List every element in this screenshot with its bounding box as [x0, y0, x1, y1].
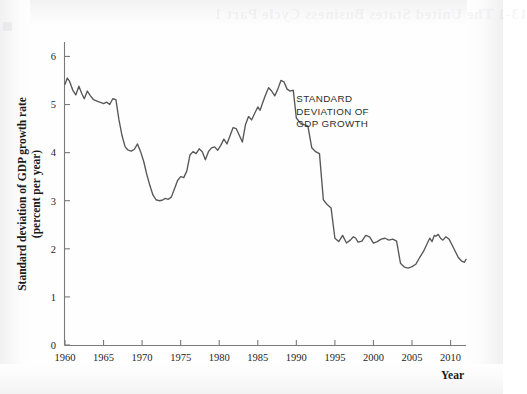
x-axis-ticks: 1960196519701975198019851990199520002005… — [55, 340, 462, 363]
x-tick-label: 2005 — [402, 352, 423, 363]
x-tick-label: 1990 — [286, 352, 307, 363]
y-axis-ticks: 0123456 — [51, 51, 70, 351]
annotation-text-line: GDP GROWTH — [296, 118, 368, 129]
series-annotation: STANDARDDEVIATION OFGDP GROWTH — [296, 93, 369, 129]
x-tick-label: 1965 — [93, 352, 114, 363]
annotation-text-line: DEVIATION OF — [296, 106, 369, 117]
y-axis-title-line1: Standard deviation of GDP growth rate — [16, 97, 29, 291]
x-tick-label: 1985 — [247, 352, 268, 363]
x-tick-label: 1975 — [170, 352, 191, 363]
y-tick-label: 6 — [51, 51, 56, 62]
x-tick-label: 1980 — [209, 352, 230, 363]
x-tick-label: 2000 — [363, 352, 384, 363]
y-axis-title: Standard deviation of GDP growth rate (p… — [16, 97, 43, 291]
x-tick-label: 1960 — [55, 352, 76, 363]
axes-group — [65, 42, 467, 346]
y-tick-label: 1 — [51, 292, 56, 303]
annotation-text-line: STANDARD — [296, 93, 352, 104]
x-axis-title: Year — [441, 369, 464, 381]
y-tick-label: 2 — [51, 244, 56, 255]
y-axis-title-line2: (percent per year) — [30, 150, 43, 239]
data-series-group — [65, 78, 466, 268]
x-tick-label: 1970 — [132, 352, 153, 363]
x-tick-label: 2010 — [440, 352, 461, 363]
x-tick-label: 1995 — [324, 352, 345, 363]
y-tick-label: 3 — [51, 196, 56, 207]
series-line-gdp-growth-sd — [65, 78, 466, 268]
y-tick-label: 4 — [51, 147, 57, 158]
y-tick-label: 0 — [51, 340, 56, 351]
y-tick-label: 5 — [51, 99, 56, 110]
